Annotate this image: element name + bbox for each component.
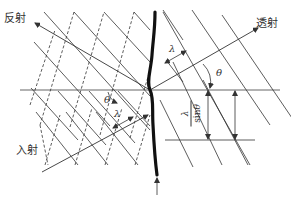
- transmitted-wavefronts: [160, 10, 291, 167]
- refraction-diagram: 反射 透射 入射 θ λ λ θ λ sinθ: [0, 0, 291, 197]
- label-transmitted: 透射: [256, 18, 278, 29]
- interface-boundary: [148, 12, 157, 175]
- label-reflected: 反射: [4, 13, 26, 24]
- theta-symbol-right: θ: [216, 68, 222, 78]
- lambda-symbol-right: λ: [169, 44, 175, 54]
- formula-denominator: sinθ: [192, 104, 202, 123]
- incident-wavefronts-lower: [36, 112, 138, 165]
- label-incident: 入射: [16, 145, 38, 156]
- spacing-formula: λ sinθ: [181, 101, 202, 127]
- transmitted-ray: [150, 28, 258, 90]
- sin-text: sin: [192, 110, 202, 123]
- lambda-symbol-left: λ: [114, 109, 120, 119]
- theta-symbol-left: θ: [104, 95, 110, 105]
- theta-text: θ: [192, 104, 202, 109]
- formula-numerator: λ: [181, 111, 191, 117]
- diagram-svg: [0, 0, 291, 197]
- reflected-ray: [35, 23, 150, 90]
- incident-ray: [42, 115, 148, 172]
